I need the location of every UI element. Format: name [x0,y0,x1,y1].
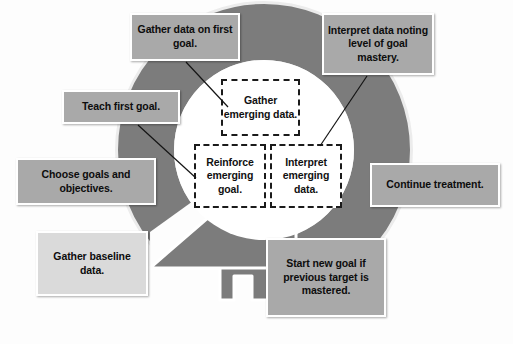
callout-label: Gather baseline data. [42,250,142,277]
callout-label: Interpret data noting level of goal mast… [328,24,428,65]
callout-gather-baseline-data: Gather baseline data. [36,231,148,296]
diagram-canvas: Gather emerging data. Reinforce emerging… [0,0,513,344]
phase-label: Gather emerging data. [223,94,298,121]
phase-box-reinforce-emerging-goal: Reinforce emerging goal. [194,144,266,208]
phase-label: Reinforce emerging goal. [196,156,264,196]
callout-label: Start new goal if previous target is mas… [272,257,380,298]
callout-label: Teach first goal. [82,100,160,114]
callout-gather-data-first-goal: Gather data on first goal. [130,13,240,61]
callout-teach-first-goal: Teach first goal. [62,90,180,124]
callout-interpret-data-goal-mastery: Interpret data noting level of goal mast… [322,13,434,75]
callout-label: Choose goals and objectives. [22,168,150,195]
callout-label: Continue treatment. [386,178,483,192]
callout-start-new-goal: Start new goal if previous target is mas… [266,238,386,317]
callout-choose-goals-objectives: Choose goals and objectives. [16,158,156,205]
callout-label: Gather data on first goal. [136,23,234,50]
phase-box-gather-emerging-data: Gather emerging data. [221,79,300,136]
phase-box-interpret-emerging-data: Interpret emerging data. [270,144,342,208]
callout-continue-treatment: Continue treatment. [370,163,500,207]
phase-label: Interpret emerging data. [272,156,340,196]
